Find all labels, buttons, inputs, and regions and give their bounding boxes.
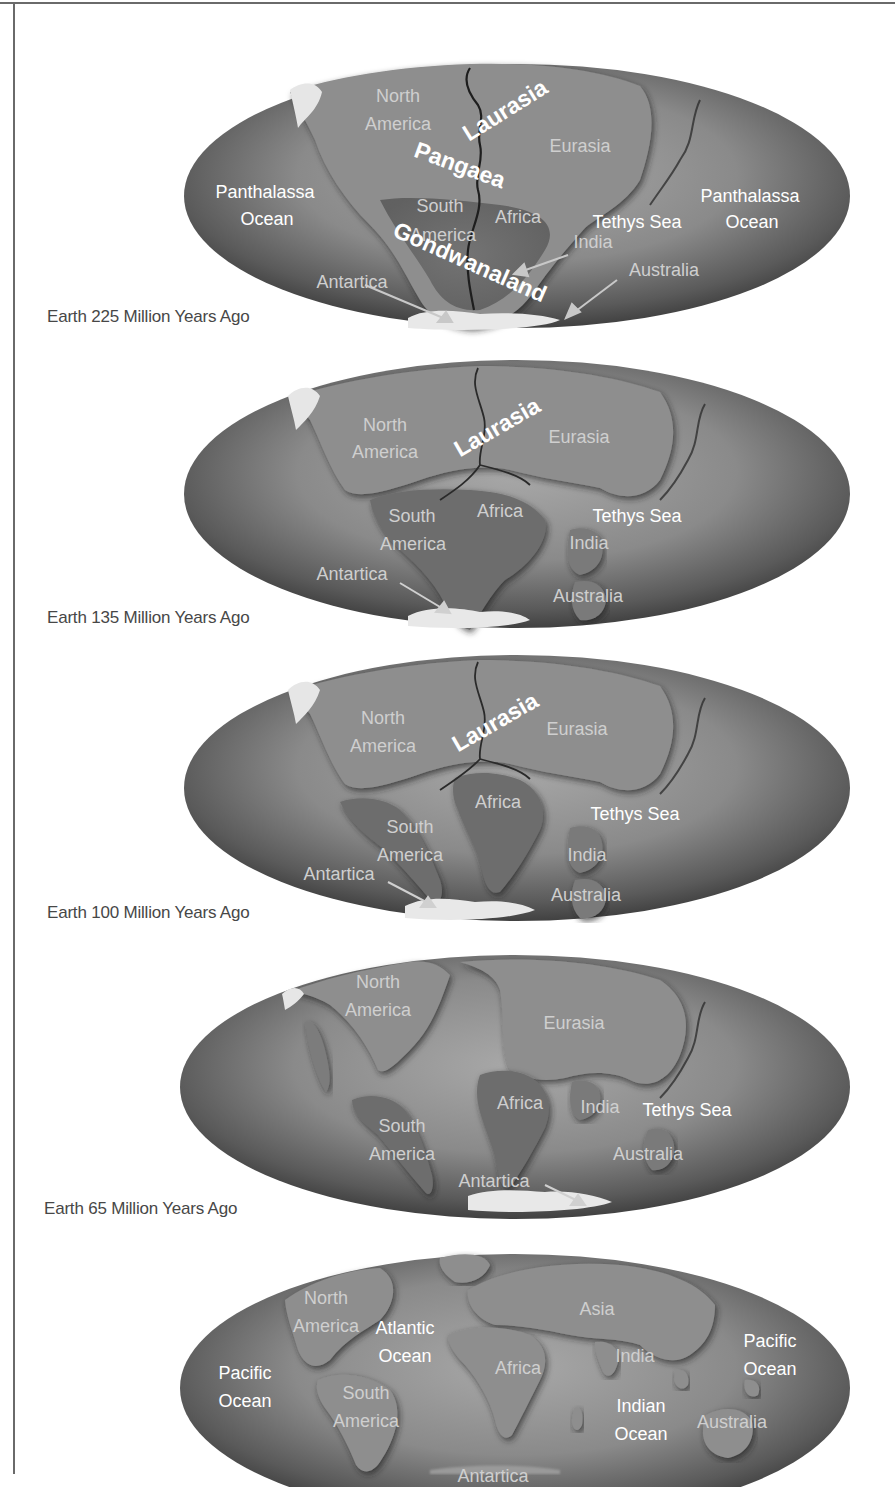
caption-225-ma: Earth 225 Million Years Ago [47,307,250,327]
label-asia: Asia [579,1299,614,1320]
label-south-america-top: South [386,817,433,838]
label-pacific-ocean-right: Pacific [743,1331,796,1352]
label-north-america-bottom: America [350,736,416,757]
label-south-america-bottom: America [333,1411,399,1432]
label-india: India [580,1097,619,1118]
label-australia: Australia [553,586,623,607]
label-indian-ocean-2: Ocean [614,1424,667,1445]
panel-65-million-years: North America Eurasia Africa India Tethy… [0,930,895,1230]
label-north-america-top: North [361,708,405,729]
label-antartica-partial: Antartica [457,1466,528,1487]
label-south-america-top: South [388,506,435,527]
label-panthalassa-right: Panthalassa [700,186,799,207]
panel-135-million-years: North America Laurasia Eurasia South Ame… [0,330,895,640]
label-north-america-top: North [376,86,420,107]
label-south-america-bottom: America [369,1144,435,1165]
label-india: India [567,845,606,866]
map-100-ma [0,630,895,930]
label-australia: Australia [697,1412,767,1433]
label-india: India [573,232,612,253]
label-atlantic-ocean-2: Ocean [378,1346,431,1367]
label-australia: Australia [629,260,699,281]
label-africa: Africa [497,1093,543,1114]
caption-65-ma: Earth 65 Million Years Ago [44,1199,237,1219]
label-africa: Africa [495,1358,541,1379]
label-panthalassa-left: Panthalassa [215,182,314,203]
map-135-ma [0,330,895,640]
label-tethys-sea: Tethys Sea [590,804,679,825]
label-pacific-ocean-left-2: Ocean [218,1391,271,1412]
label-atlantic-ocean: Atlantic [375,1318,434,1339]
label-eurasia: Eurasia [543,1013,604,1034]
label-eurasia: Eurasia [549,136,610,157]
caption-100-ma: Earth 100 Million Years Ago [47,903,250,923]
label-panthalassa-right-ocean: Ocean [725,212,778,233]
label-south-america-top: South [342,1383,389,1404]
label-north-america-top: North [304,1288,348,1309]
label-north-america-top: North [356,972,400,993]
label-south-america-bottom: America [377,845,443,866]
label-north-america-bottom: America [293,1316,359,1337]
panel-225-million-years: North America Laurasia Eurasia Pangaea P… [0,0,895,340]
label-africa: Africa [495,207,541,228]
panel-present-day: North America Atlantic Ocean Asia Pacifi… [0,1230,895,1474]
label-antartica: Antartica [458,1171,529,1192]
label-north-america-bottom: America [345,1000,411,1021]
label-pacific-ocean-right-2: Ocean [743,1359,796,1380]
label-eurasia: Eurasia [546,719,607,740]
label-south-america-bottom: America [380,534,446,555]
label-south-america-top: South [416,196,463,217]
label-north-america-top: North [363,415,407,436]
label-tethys-sea: Tethys Sea [592,212,681,233]
label-indian-ocean: Indian [616,1396,665,1417]
label-south-america-top: South [378,1116,425,1137]
label-tethys-sea: Tethys Sea [642,1100,731,1121]
label-india: India [615,1346,654,1367]
map-present-day [0,1230,895,1474]
label-antartica: Antartica [316,564,387,585]
label-eurasia: Eurasia [548,427,609,448]
label-australia: Australia [613,1144,683,1165]
label-africa: Africa [477,501,523,522]
label-australia: Australia [551,885,621,906]
panel-100-million-years: North America Laurasia Eurasia Africa Te… [0,630,895,930]
label-india: India [569,533,608,554]
label-pacific-ocean-left: Pacific [218,1363,271,1384]
label-north-america-bottom: America [352,442,418,463]
label-antartica: Antartica [303,864,374,885]
label-tethys-sea: Tethys Sea [592,506,681,527]
label-antartica: Antartica [316,272,387,293]
label-north-america-bottom: America [365,114,431,135]
label-panthalassa-left-ocean: Ocean [240,209,293,230]
label-africa: Africa [475,792,521,813]
caption-135-ma: Earth 135 Million Years Ago [47,608,250,628]
map-65-ma [0,930,895,1230]
